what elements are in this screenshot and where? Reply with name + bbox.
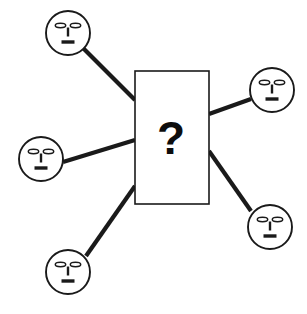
right-eye-icon	[272, 217, 282, 221]
diagram-svg: ?	[0, 0, 307, 314]
center-node-label: ?	[157, 112, 185, 164]
nose-icon	[67, 267, 69, 276]
left-eye-icon	[259, 80, 269, 84]
nose-icon	[40, 154, 42, 163]
nose-icon	[67, 28, 69, 37]
connector-bottom-right	[209, 151, 251, 211]
connector-left	[63, 140, 135, 162]
face-top-right[interactable]	[250, 68, 294, 112]
right-eye-icon	[70, 262, 80, 266]
center-node[interactable]: ?	[135, 71, 209, 204]
mouth-icon	[62, 279, 75, 282]
left-eye-icon	[257, 217, 267, 221]
connector-bottom-left	[86, 186, 135, 256]
right-eye-icon	[70, 23, 80, 27]
connector-top-right	[209, 99, 251, 114]
right-eye-icon	[43, 149, 53, 153]
connector-top-left	[83, 48, 135, 100]
left-eye-icon	[55, 23, 65, 27]
face-bottom-right[interactable]	[248, 205, 292, 249]
mouth-icon	[35, 166, 48, 169]
mouth-icon	[266, 97, 279, 100]
nose-icon	[271, 85, 273, 94]
right-eye-icon	[274, 80, 284, 84]
face-bottom-left[interactable]	[46, 250, 90, 294]
left-eye-icon	[55, 262, 65, 266]
diagram-canvas: ?	[0, 0, 307, 314]
mouth-icon	[264, 234, 277, 237]
nose-icon	[269, 222, 271, 231]
mouth-icon	[62, 40, 75, 43]
left-eye-icon	[28, 149, 38, 153]
face-left[interactable]	[19, 137, 63, 181]
face-top-left[interactable]	[46, 11, 90, 55]
